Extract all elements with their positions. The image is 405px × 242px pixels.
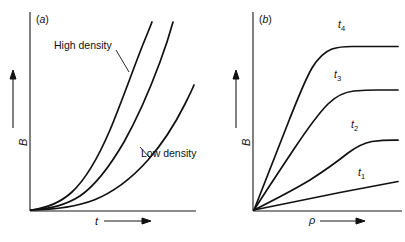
curve-label-t2: t2 (351, 119, 358, 133)
curve-label-t3: t3 (334, 69, 341, 83)
panel-b-x-axis-arrow (320, 218, 365, 224)
curve-t1 (254, 182, 398, 211)
curve-label-t4: t4 (338, 19, 345, 33)
panel-b-tag-close: ) (268, 13, 272, 25)
curve-label-t1: t1 (358, 167, 365, 181)
figure-root: (a) High density Low density B t (0, 0, 405, 242)
panel-b-y-axis-label: B (241, 139, 252, 146)
panel-b: (b) t4 t3 t2 t1 B ρ (0, 0, 405, 242)
panel-b-tag: (b) (259, 14, 272, 25)
curve-label-t2-sub: 2 (354, 124, 358, 133)
curve-t3 (254, 90, 398, 210)
curve-t2 (254, 140, 398, 210)
panel-b-x-axis-label: ρ (309, 215, 315, 226)
panel-b-canvas (0, 0, 405, 242)
curve-label-t3-sub: 3 (337, 74, 341, 83)
curve-label-t1-sub: 1 (361, 172, 365, 181)
panel-b-y-axis-arrow (233, 70, 239, 128)
curve-label-t4-sub: 4 (341, 24, 345, 33)
